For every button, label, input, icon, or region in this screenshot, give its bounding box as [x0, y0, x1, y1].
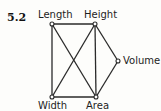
label-volume: Volume [123, 56, 160, 66]
label-width: Width [38, 101, 67, 111]
edge-height-volume [95, 24, 118, 61]
node-volume [116, 59, 120, 63]
edge-area-volume [96, 61, 118, 97]
label-length: Length [38, 10, 73, 20]
edge-height-area [95, 24, 96, 97]
node-height [93, 22, 97, 26]
node-width [50, 95, 54, 99]
node-area [94, 95, 98, 99]
label-area: Area [86, 101, 109, 111]
label-height: Height [84, 10, 117, 20]
node-length [50, 22, 54, 26]
graph-diagram: 5.2 Length Height Volume Width Area [0, 0, 161, 111]
